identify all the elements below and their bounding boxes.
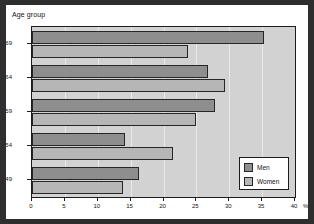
chart-legend: Men Women	[239, 157, 289, 190]
legend-label-women: Women	[257, 178, 279, 185]
x-axis-unit-label: %	[303, 203, 308, 209]
bar-women-50-54	[32, 147, 173, 160]
gridline	[196, 27, 197, 197]
y-tick	[27, 145, 31, 146]
chart-figure: Age group 45-4950-5455-5960-6465-69 % 05…	[6, 5, 308, 219]
bar-women-45-49	[32, 181, 123, 194]
x-tick	[195, 198, 196, 201]
x-tick-label: 10	[93, 203, 100, 209]
x-tick-label: 15	[126, 203, 133, 209]
x-tick-label: 40	[291, 203, 298, 209]
y-tick-label-65-69: 65-69	[6, 40, 12, 46]
y-tick	[27, 111, 31, 112]
gridline	[229, 27, 230, 197]
x-tick-label: 0	[29, 203, 32, 209]
y-tick-label-50-54: 50-54	[6, 142, 12, 148]
x-tick-label: 20	[159, 203, 166, 209]
bar-women-60-64	[32, 79, 225, 92]
x-tick	[261, 198, 262, 201]
legend-label-men: Men	[257, 164, 270, 171]
x-tick	[228, 198, 229, 201]
chart-title: Age group	[12, 11, 45, 18]
bar-men-60-64	[32, 65, 208, 78]
legend-item-women: Women	[244, 175, 279, 187]
y-tick	[27, 43, 31, 44]
x-tick	[97, 198, 98, 201]
bar-women-65-69	[32, 45, 188, 58]
y-tick-label-45-49: 45-49	[6, 176, 12, 182]
y-tick	[27, 77, 31, 78]
x-axis: % 0510152025303540	[31, 198, 296, 216]
y-tick-label-55-59: 55-59	[6, 108, 12, 114]
x-tick-label: 30	[225, 203, 232, 209]
y-tick-label-60-64: 60-64	[6, 74, 12, 80]
x-tick	[64, 198, 65, 201]
bar-men-55-59	[32, 99, 215, 112]
legend-item-men: Men	[244, 161, 270, 173]
y-tick	[27, 179, 31, 180]
x-tick-label: 5	[62, 203, 65, 209]
x-tick	[31, 198, 32, 201]
x-tick	[130, 198, 131, 201]
x-tick	[163, 198, 164, 201]
bar-men-65-69	[32, 31, 264, 44]
legend-swatch-women	[244, 177, 253, 186]
legend-swatch-men	[244, 163, 253, 172]
x-tick-label: 35	[258, 203, 265, 209]
bar-women-55-59	[32, 113, 196, 126]
bar-men-45-49	[32, 167, 139, 180]
x-tick-label: 25	[192, 203, 199, 209]
bar-men-50-54	[32, 133, 125, 146]
x-tick	[294, 198, 295, 201]
